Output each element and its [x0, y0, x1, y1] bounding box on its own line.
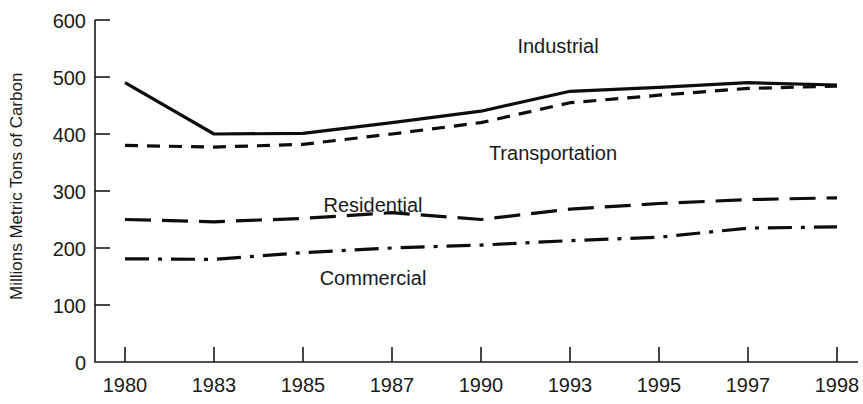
chart-canvas: Millions Metric Tons of Carbon 600 500 4…	[0, 0, 863, 404]
x-tick-marks	[125, 347, 837, 362]
series-line-industrial	[125, 83, 837, 134]
series-label-residential: Residential	[324, 194, 423, 216]
y-axis-title: Millions Metric Tons of Carbon	[7, 73, 26, 300]
x-tick-label-1987: 1987	[370, 374, 415, 396]
y-tick-label-0: 0	[75, 352, 86, 374]
y-tick-label-200: 200	[53, 238, 86, 260]
axis-lines	[95, 20, 858, 362]
x-tick-label-1998: 1998	[815, 374, 860, 396]
line-chart: Millions Metric Tons of Carbon 600 500 4…	[0, 0, 863, 404]
x-tick-label-1995: 1995	[637, 374, 682, 396]
series-label-industrial: Industrial	[517, 35, 598, 57]
series-line-transportation	[125, 86, 837, 147]
series-line-residential	[125, 198, 837, 222]
x-tick-label-1993: 1993	[548, 374, 593, 396]
y-tick-label-600: 600	[53, 10, 86, 32]
series-label-transportation: Transportation	[489, 142, 617, 164]
y-tick-label-400: 400	[53, 124, 86, 146]
series-line-commercial	[125, 227, 837, 260]
y-tick-label-100: 100	[53, 295, 86, 317]
y-tick-marks	[95, 20, 110, 305]
x-tick-label-1980: 1980	[103, 374, 148, 396]
x-tick-label-1990: 1990	[459, 374, 504, 396]
y-axis-title-text: Millions Metric Tons of Carbon	[7, 73, 26, 300]
y-tick-label-500: 500	[53, 67, 86, 89]
y-tick-label-300: 300	[53, 181, 86, 203]
series-label-commercial: Commercial	[320, 267, 427, 289]
x-tick-label-1997: 1997	[726, 374, 771, 396]
y-tick-labels: 600 500 400 300 200 100 0	[53, 10, 86, 374]
x-tick-label-1985: 1985	[281, 374, 326, 396]
series-lines	[125, 83, 837, 260]
x-tick-labels: 1980 1983 1985 1987 1990 1993 1995 1997 …	[103, 374, 860, 396]
x-tick-label-1983: 1983	[192, 374, 237, 396]
